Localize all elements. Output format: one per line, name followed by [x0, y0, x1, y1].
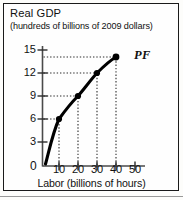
- x-tick-label-40: 40: [106, 164, 126, 175]
- pf-curve-label: PF: [134, 49, 151, 62]
- x-axis-title: Labor (billions of hours): [0, 177, 183, 189]
- y-tick-label-12: 12: [14, 67, 36, 78]
- x-tick-label-20: 20: [68, 164, 88, 175]
- origin-label: 0: [30, 160, 37, 172]
- page-rule: [0, 196, 183, 197]
- y-tick-label-15: 15: [14, 44, 36, 55]
- x-tick-label-50: 50: [125, 164, 145, 175]
- data-point: [113, 54, 120, 61]
- x-tick-label-30: 30: [87, 164, 107, 175]
- y-tick-label-3: 3: [14, 136, 36, 147]
- data-point: [56, 116, 62, 122]
- x-tick-label-10: 10: [49, 164, 69, 175]
- y-tick-label-6: 6: [14, 113, 36, 124]
- y-tick-label-9: 9: [14, 90, 36, 101]
- data-point: [94, 70, 100, 76]
- data-point: [75, 93, 81, 99]
- figure-container: Real GDP (hundreds of billions of 2009 d…: [0, 0, 183, 200]
